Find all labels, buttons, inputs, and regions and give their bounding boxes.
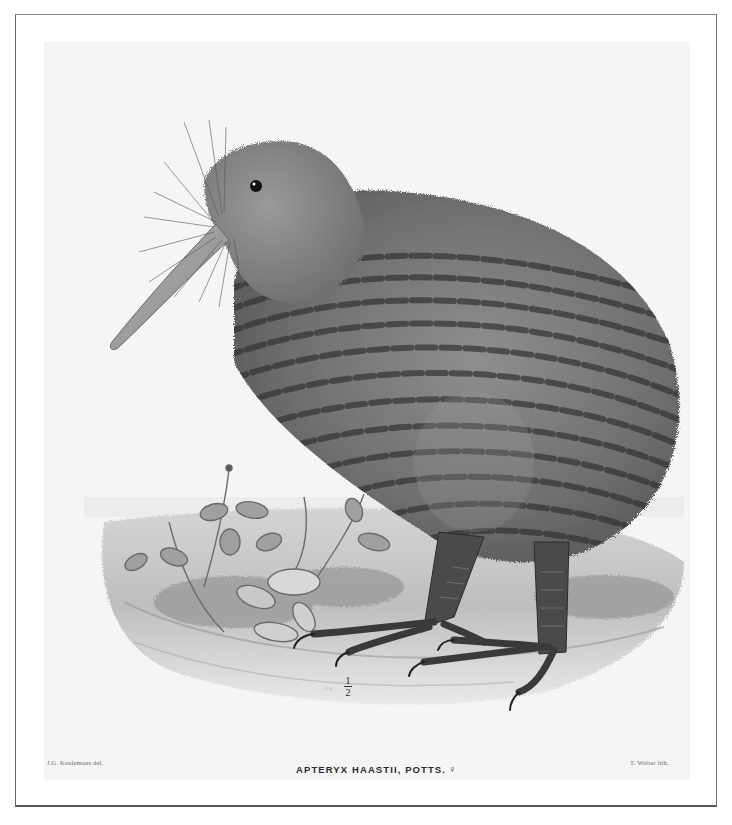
delineator-credit: J.G. Keulemans del. <box>47 759 103 766</box>
female-symbol-icon: ♀ <box>448 763 457 775</box>
lithographer-credit: T. Walter lith. <box>630 759 669 766</box>
species-caption: APTERYX HAASTII, POTTS.♀ <box>296 763 457 775</box>
scale-denominator: 2 <box>345 686 351 698</box>
plate-illustration <box>44 42 690 780</box>
scale-numerator: 1 <box>345 674 351 686</box>
species-name: APTERYX HAASTII, POTTS. <box>296 764 446 775</box>
kiwi-illustration <box>44 42 690 780</box>
eye-icon <box>250 180 262 192</box>
scale-fraction: 1 2 <box>344 676 352 697</box>
artist-initials: J.G.K. <box>323 686 333 691</box>
